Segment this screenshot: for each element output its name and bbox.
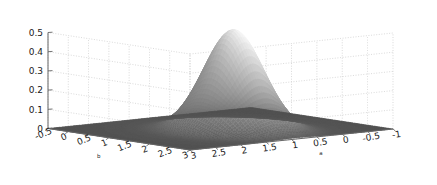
surface-plot-figure: 00.10.20.30.40.5 -0.500.511.522.53 32.52… bbox=[0, 0, 437, 185]
x-axis-label: a bbox=[319, 150, 322, 156]
z-tick-label: 0.1 bbox=[29, 105, 43, 115]
surface-facet bbox=[248, 108, 253, 109]
z-tick-label: 0.5 bbox=[29, 28, 43, 38]
a-tick-label: -1 bbox=[391, 129, 402, 140]
y-axis-label: b bbox=[97, 153, 101, 159]
z-tick-label: 0.3 bbox=[29, 66, 43, 76]
z-tick-label: 0.2 bbox=[29, 85, 43, 95]
surface-plot-canvas: 00.10.20.30.40.5 -0.500.511.522.53 32.52… bbox=[0, 0, 437, 185]
z-tick-label: 0.4 bbox=[29, 47, 44, 57]
